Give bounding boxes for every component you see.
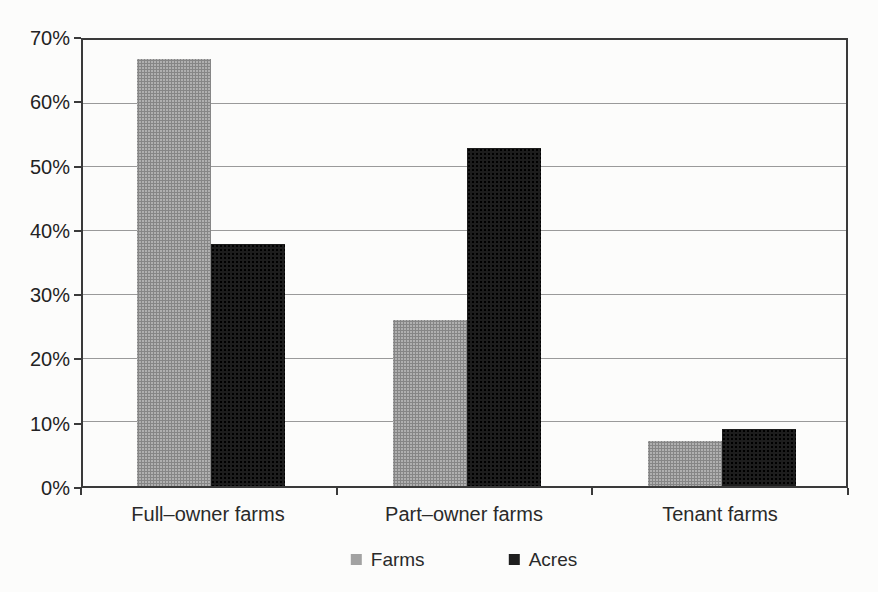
legend-label-acres: Acres	[529, 550, 578, 569]
x-axis-label-full-owner-farms: Full–owner farms	[131, 503, 284, 526]
x-axis-label-tenant-farms: Tenant farms	[662, 503, 778, 526]
plot-area	[81, 38, 848, 488]
bar-farms-full-owner-farms	[137, 59, 211, 486]
legend-label-farms: Farms	[371, 550, 425, 569]
y-tick-label: 70%	[30, 28, 70, 48]
y-axis-tick	[74, 37, 81, 39]
bar-farms-tenant-farms	[648, 441, 722, 486]
y-tick-label: 60%	[30, 92, 70, 112]
x-axis-label-part-owner-farms: Part–owner farms	[385, 503, 543, 526]
y-axis-tick	[74, 358, 81, 360]
y-tick-label: 40%	[30, 221, 70, 241]
bar-acres-tenant-farms	[722, 429, 796, 486]
y-tick-label: 20%	[30, 349, 70, 369]
bar-farms-part-owner-farms	[393, 320, 467, 486]
x-axis-tick	[336, 488, 338, 495]
y-tick-label: 50%	[30, 157, 70, 177]
bar-group-part-owner-farms	[393, 40, 541, 486]
farms-series-swatch-icon	[351, 554, 362, 565]
bar-group-full-owner-farms	[137, 40, 285, 486]
legend-item-acres: Acres	[509, 550, 578, 569]
y-axis-tick	[74, 423, 81, 425]
bar-acres-part-owner-farms	[467, 148, 541, 486]
y-tick-label: 30%	[30, 285, 70, 305]
legend-item-farms: Farms	[351, 550, 425, 569]
chart-legend: Farms Acres	[351, 550, 577, 569]
bar-group-tenant-farms	[648, 40, 796, 486]
x-axis-tick	[591, 488, 593, 495]
y-axis-tick	[74, 230, 81, 232]
y-tick-label: 10%	[30, 414, 70, 434]
y-axis-tick	[74, 294, 81, 296]
y-axis-labels: 0%10%20%30%40%50%60%70%	[0, 38, 70, 488]
y-axis-tick	[74, 101, 81, 103]
y-tick-label: 0%	[41, 478, 70, 498]
y-axis-tick	[74, 166, 81, 168]
x-axis-tick	[80, 488, 82, 495]
acres-series-swatch-icon	[509, 554, 520, 565]
x-axis-tick	[847, 488, 849, 495]
bar-acres-full-owner-farms	[211, 244, 285, 486]
bar-chart: 0%10%20%30%40%50%60%70% Full–owner farms…	[0, 0, 878, 592]
